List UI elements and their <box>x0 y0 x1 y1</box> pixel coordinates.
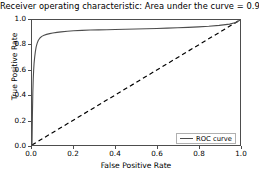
chance-diagonal-line <box>32 20 240 145</box>
chart-legend: ROC curve <box>176 133 236 144</box>
x-tick-label: 0.0 <box>16 150 46 158</box>
x-tick-label: 0.2 <box>58 150 88 158</box>
x-tick-label: 0.4 <box>100 150 130 158</box>
x-tick-mark <box>199 146 200 149</box>
y-tick-label: 0.0 <box>0 142 26 150</box>
x-tick-label: 1.0 <box>226 150 256 158</box>
y-axis-label: True Positive Rate <box>10 7 19 127</box>
chart-title: Receiver operating characteristic: Area … <box>0 1 259 12</box>
x-tick-mark <box>241 146 242 149</box>
x-tick-mark <box>31 146 32 149</box>
roc-chart-figure: Receiver operating characteristic: Area … <box>0 0 259 176</box>
legend-line-swatch <box>180 138 193 139</box>
x-tick-label: 0.8 <box>184 150 214 158</box>
legend-label-roc-curve: ROC curve <box>196 135 232 143</box>
x-tick-mark <box>73 146 74 149</box>
x-axis-label: False Positive Rate <box>31 161 241 170</box>
plot-canvas <box>32 20 240 145</box>
x-tick-mark <box>157 146 158 149</box>
plot-area <box>31 19 241 146</box>
x-tick-label: 0.6 <box>142 150 172 158</box>
x-tick-mark <box>115 146 116 149</box>
